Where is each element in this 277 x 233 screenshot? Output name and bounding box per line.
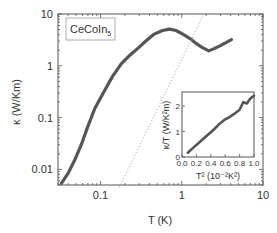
inset-x-tick-label: 0.2: [191, 159, 203, 168]
inset-x-axis-label: T² (10⁻²K²): [196, 171, 240, 181]
sample-label-box: CeCoIn5: [66, 18, 115, 40]
inset-x-tick-label: 0.4: [205, 159, 217, 168]
x-axis-label: T (K): [148, 214, 172, 226]
y-tick-label: 1: [47, 60, 53, 72]
y-tick-label: 0.1: [38, 112, 53, 124]
y-axis-label: κ (W/Km): [10, 79, 22, 125]
x-tick-label: 0.1: [93, 189, 108, 201]
x-tick-label: 10: [257, 189, 269, 201]
inset-y-tick-label: 0: [176, 153, 181, 162]
inset-y-axis-label: κ/T (W/K²m): [161, 101, 171, 149]
inset-plot: 0.00.20.40.60.81.0012: [176, 92, 261, 168]
inset-x-tick-label: 0.6: [220, 159, 232, 168]
inset-y-tick-label: 1: [176, 128, 181, 137]
chart-canvas: 0.11100.010.1110 CeCoIn5 κ (W/Km) T (K) …: [0, 0, 277, 233]
thermal-conductivity-chart: 0.11100.010.1110 CeCoIn5 κ (W/Km) T (K) …: [0, 0, 277, 233]
inset-x-tick-label: 0.8: [234, 159, 246, 168]
inset-y-tick-label: 2: [176, 102, 181, 111]
x-tick-label: 1: [179, 189, 185, 201]
inset-x-tick-label: 1.0: [248, 159, 260, 168]
y-tick-label: 0.01: [32, 163, 53, 175]
y-tick-label: 10: [41, 8, 53, 20]
sample-label: CeCoIn5: [70, 23, 111, 37]
